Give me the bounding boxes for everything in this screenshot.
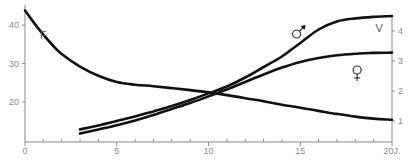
female-symbol-circle — [353, 66, 361, 74]
x-tick-label: 20J. — [383, 146, 400, 156]
series-line-male — [80, 16, 392, 129]
x-tick-label: 15 — [295, 146, 305, 156]
y-left-tick-label: 30 — [9, 59, 19, 69]
series-line-female — [80, 53, 392, 134]
curve-label-V: V — [375, 22, 383, 34]
series-lines — [25, 10, 392, 133]
y-left-axis-ticks: 203040 — [9, 20, 25, 107]
y-right-tick-label: 2 — [398, 86, 403, 96]
curve-label-F: F — [40, 29, 47, 41]
male-symbol-icon — [293, 25, 306, 38]
x-tick-label: 10 — [203, 146, 213, 156]
female-symbol-icon — [353, 66, 361, 81]
series-line-F — [25, 10, 392, 119]
y-right-axis-ticks: 1234 — [392, 26, 403, 126]
y-left-tick-label: 20 — [9, 97, 19, 107]
axes — [25, 5, 392, 142]
x-tick-label: 0 — [22, 146, 27, 156]
y-right-tick-label: 3 — [398, 56, 403, 66]
y-left-tick-label: 40 — [9, 20, 19, 30]
x-tick-label: 5 — [114, 146, 119, 156]
growth-chart: 05101520J. 203040 1234 FV — [0, 0, 409, 161]
y-right-tick-label: 4 — [398, 26, 403, 36]
male-symbol-circle — [293, 30, 301, 38]
y-right-tick-label: 1 — [398, 116, 403, 126]
